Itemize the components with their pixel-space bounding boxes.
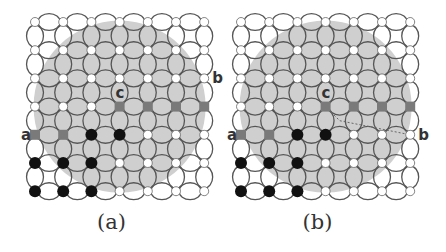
node-r0-c3 — [321, 18, 330, 27]
node-r4-c1 — [264, 130, 274, 140]
node-r4-c3 — [320, 129, 332, 141]
node-r1-c6 — [406, 46, 415, 55]
node-r6-c1 — [263, 185, 275, 197]
node-r6-c0 — [235, 185, 247, 197]
node-r5-c1 — [263, 157, 275, 169]
node-r3-c1 — [265, 102, 274, 111]
node-r4-c0 — [236, 130, 246, 140]
node-r0-c2 — [293, 18, 302, 27]
node-r2-c3 — [321, 74, 330, 83]
node-r3-c2 — [293, 102, 302, 111]
label-b: b — [418, 126, 429, 144]
node-r6-c2 — [291, 185, 303, 197]
node-r4-c5 — [378, 130, 387, 139]
node-r2-c1 — [265, 74, 274, 83]
node-r5-c4 — [349, 159, 358, 168]
node-r5-c3 — [321, 159, 330, 168]
node-r1-c2 — [293, 46, 302, 55]
node-r6-c6 — [406, 187, 415, 196]
node-r2-c6 — [406, 74, 415, 83]
caption-b: (b) — [206, 210, 429, 234]
node-r3-c4 — [349, 102, 359, 112]
label-c: c — [322, 84, 331, 102]
node-r5-c2 — [291, 157, 303, 169]
node-r5-c6 — [406, 159, 415, 168]
node-r4-c2 — [291, 129, 303, 141]
node-r2-c4 — [349, 74, 358, 83]
node-r1-c0 — [237, 46, 246, 55]
node-r4-c6 — [406, 130, 415, 139]
node-r3-c5 — [377, 102, 387, 112]
node-r6-c3 — [321, 187, 330, 196]
node-r5-c0 — [235, 157, 247, 169]
label-a: a — [227, 126, 237, 144]
panel-b: abc (b) — [0, 0, 446, 252]
node-r1-c4 — [349, 46, 358, 55]
node-r3-c0 — [237, 102, 246, 111]
node-r6-c4 — [349, 187, 358, 196]
node-r3-c3 — [321, 102, 331, 112]
node-r1-c1 — [265, 46, 274, 55]
node-r4-c4 — [349, 130, 358, 139]
node-r2-c0 — [237, 74, 246, 83]
node-r1-c3 — [321, 46, 330, 55]
node-r3-c6 — [405, 102, 415, 112]
node-r1-c5 — [378, 46, 387, 55]
node-r0-c0 — [237, 18, 246, 27]
node-r0-c5 — [378, 18, 387, 27]
node-r0-c1 — [265, 18, 274, 27]
node-r6-c5 — [378, 187, 387, 196]
node-r5-c5 — [378, 159, 387, 168]
node-r2-c5 — [378, 74, 387, 83]
node-r2-c2 — [293, 74, 302, 83]
node-r0-c4 — [349, 18, 358, 27]
node-r0-c6 — [406, 18, 415, 27]
